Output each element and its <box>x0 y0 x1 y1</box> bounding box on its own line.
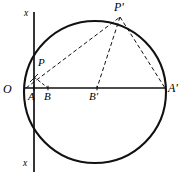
dashed-line-P-prime-to-B-prime <box>97 17 120 88</box>
dashed-line-P-prime-to-A-prime <box>120 17 165 88</box>
dashed-line-O-to-P-prime <box>26 17 120 88</box>
label-origin: O <box>3 83 12 95</box>
geometry-figure: O A B B' A' P P' x x <box>0 0 185 183</box>
label-point-p-prime: P' <box>114 1 124 13</box>
label-point-a: A <box>28 91 35 102</box>
label-point-p: P <box>38 57 45 68</box>
label-axis-bottom: x <box>23 159 27 169</box>
label-point-b-prime: B' <box>89 91 98 102</box>
dashed-line-P-to-B <box>34 77 48 88</box>
label-axis-top: x <box>24 9 28 19</box>
label-point-a-prime: A' <box>168 82 178 94</box>
label-point-b: B <box>44 91 51 102</box>
